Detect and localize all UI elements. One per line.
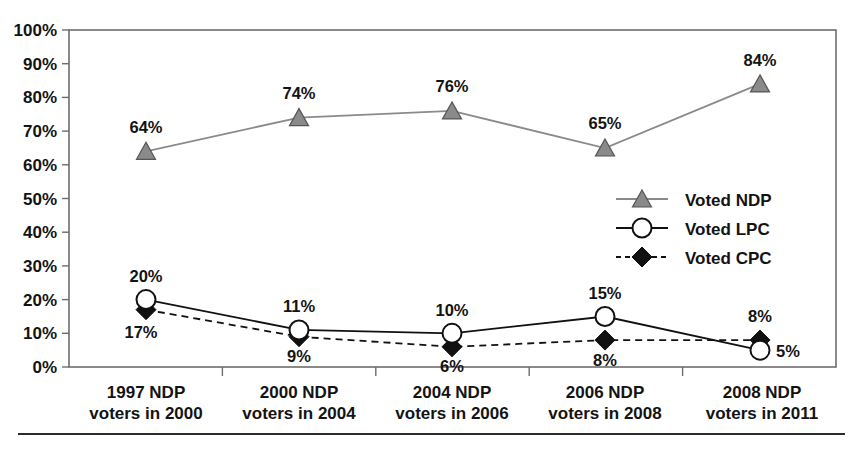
marker-circle-lpc-1 [290,320,309,339]
line-chart: 0% 10% 20% 30% 40% 50% 60% 70% 80% 90% 1… [0,0,862,455]
y-axis-ticks [62,30,69,367]
data-label-ndp-0: 64% [129,118,162,136]
data-label-cpc-4: 8% [748,307,772,325]
data-label-lpc-1: 11% [283,297,315,315]
marker-circle-lpc-3 [596,307,615,326]
marker-triangle-ndp-4 [751,75,770,92]
circle-icon [633,219,652,238]
y-tick-label-10: 10% [23,324,57,343]
y-tick-label-0: 0% [32,358,57,377]
y-tick-label-40: 40% [23,223,57,242]
x-tick-label-3-line2: voters in 2008 [548,404,661,423]
x-tick-label-1-line2: voters in 2004 [242,404,356,423]
y-tick-label-30: 30% [23,257,57,276]
data-label-ndp-2: 76% [435,77,468,95]
data-label-cpc-3: 8% [593,351,617,369]
y-tick-label-20: 20% [23,291,57,310]
legend-label-ndp: Voted NDP [685,191,772,210]
x-tick-label-4-line2: voters in 2011 [706,404,818,423]
data-label-lpc-4: 5% [776,342,800,360]
legend-label-lpc: Voted LPC [685,220,770,239]
chart-figure: 0% 10% 20% 30% 40% 50% 60% 70% 80% 90% 1… [0,0,862,455]
x-tick-label-2-line1: 2004 NDP [413,383,491,402]
y-tick-label-90: 90% [23,55,57,74]
y-tick-label-70: 70% [23,122,57,141]
marker-circle-lpc-0 [137,290,156,309]
data-label-lpc-2: 10% [435,301,468,319]
x-tick-label-1-line1: 2000 NDP [260,383,338,402]
data-label-cpc-1: 9% [287,347,311,365]
data-label-lpc-0: 20% [129,267,162,285]
data-label-ndp-4: 84% [743,51,776,69]
x-tick-label-3-line1: 2006 NDP [566,383,644,402]
marker-diamond-cpc-3 [595,330,615,350]
legend-item-voted-lpc[interactable]: Voted LPC [616,219,770,240]
x-tick-label-2-line2: voters in 2006 [395,404,508,423]
y-tick-label-100: 100% [14,21,57,40]
x-tick-label-0-line1: 1997 NDP [107,383,185,402]
data-label-ndp-1: 74% [282,84,315,102]
legend-item-voted-ndp[interactable]: Voted NDP [616,190,772,210]
marker-triangle-ndp-3 [596,139,615,156]
legend-label-cpc: Voted CPC [685,249,772,268]
y-tick-label-80: 80% [23,88,57,107]
x-tick-label-0-line2: voters in 2000 [89,404,202,423]
y-tick-label-60: 60% [23,156,57,175]
y-tick-label-50: 50% [23,190,57,209]
data-label-cpc-0: 17% [124,323,157,341]
data-label-ndp-3: 65% [588,114,621,132]
data-label-cpc-2: 6% [440,357,464,375]
chart-legend: Voted NDP Voted LPC Voted CPC [616,190,772,268]
diamond-icon [632,247,652,267]
x-tick-label-4-line1: 2008 NDP [723,383,801,402]
marker-circle-lpc-4 [751,341,770,360]
data-label-lpc-3: 15% [588,284,621,302]
marker-circle-lpc-2 [443,324,462,343]
legend-item-voted-cpc[interactable]: Voted CPC [616,247,772,268]
marker-triangle-ndp-0 [137,142,156,159]
